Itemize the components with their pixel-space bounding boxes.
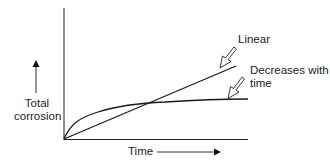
decreasing-curve-label: Decreases with time xyxy=(250,64,329,90)
decreasing-curve-label-line1: Decreases with xyxy=(250,64,329,77)
y-direction-arrow-icon xyxy=(33,60,40,93)
linear-curve-label: Linear xyxy=(238,33,270,46)
decreasing-rate-curve xyxy=(64,99,248,139)
decreasing-pointer-arrow-icon xyxy=(228,77,245,99)
y-axis-label-line2: corrosion xyxy=(14,110,60,123)
y-axis-label: Total corrosion xyxy=(14,97,60,123)
x-axis-label: Time xyxy=(128,145,153,158)
linear-pointer-arrow-icon xyxy=(220,47,237,68)
x-direction-arrow-icon xyxy=(157,149,221,156)
decreasing-curve-label-line2: time xyxy=(250,77,329,90)
y-axis-label-line1: Total xyxy=(14,97,60,110)
